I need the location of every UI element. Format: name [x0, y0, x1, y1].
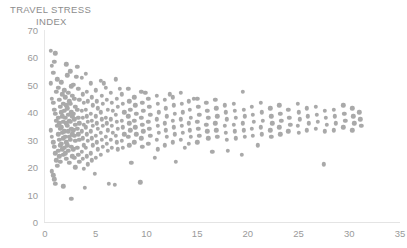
- y-tick-label: 30: [4, 134, 38, 145]
- y-tick-label: 60: [4, 52, 38, 63]
- x-tick-label: 0: [42, 228, 47, 239]
- y-tick-label: 50: [4, 79, 38, 90]
- x-axis-tick-labels: 05101520253035: [0, 228, 407, 244]
- x-axis-line: [44, 222, 400, 223]
- y-tick-label: 40: [4, 107, 38, 118]
- y-tick-label: 20: [4, 162, 38, 173]
- scatter-chart: TRAVEL STRESS INDEX 010203040506070 0510…: [0, 0, 407, 248]
- x-tick-label: 25: [293, 228, 304, 239]
- x-tick-label: 20: [243, 228, 254, 239]
- y-axis-tick-labels: 010203040506070: [0, 0, 38, 248]
- y-tick-label: 0: [4, 217, 38, 228]
- x-tick-label: 15: [192, 228, 203, 239]
- y-tick-label: 10: [4, 189, 38, 200]
- x-tick-label: 5: [93, 228, 98, 239]
- x-tick-label: 30: [344, 228, 355, 239]
- y-tick-label: 70: [4, 25, 38, 36]
- x-tick-label: 35: [395, 228, 406, 239]
- x-tick-label: 10: [141, 228, 152, 239]
